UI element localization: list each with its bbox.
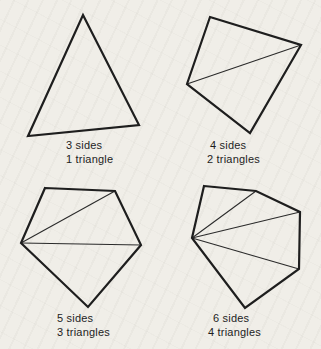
label-quadrilateral: 4 sides 2 triangles <box>207 139 260 166</box>
quadrilateral-shape <box>187 17 301 133</box>
label-hexagon: 6 sides 4 triangles <box>208 312 261 339</box>
pentagon-diagonal <box>21 191 115 243</box>
label-triangle: 3 sides 1 triangle <box>66 139 113 166</box>
triangle-sides-count: 3 sides <box>66 139 113 153</box>
hexagon-triangles-count: 4 triangles <box>208 326 261 340</box>
quadrilateral-sides-count: 4 sides <box>207 139 260 153</box>
hexagon-diagonal <box>192 212 300 238</box>
hexagon-sides-count: 6 sides <box>208 312 261 326</box>
pentagon-sides-count: 5 sides <box>57 312 110 326</box>
pentagon-triangles-count: 3 triangles <box>57 326 110 340</box>
worksheet-page: 3 sides 1 triangle 4 sides 2 triangles 5… <box>0 0 321 349</box>
label-pentagon: 5 sides 3 triangles <box>57 312 110 339</box>
hexagon-shape <box>192 186 300 308</box>
triangle-triangles-count: 1 triangle <box>66 153 113 167</box>
hexagon-diagonal <box>192 238 299 269</box>
pentagon-shape <box>21 188 141 307</box>
pentagon-diagonal <box>21 243 141 245</box>
quadrilateral-triangles-count: 2 triangles <box>207 153 260 167</box>
polygons-canvas <box>0 0 321 349</box>
triangle-shape <box>28 15 139 136</box>
quadrilateral-diagonal <box>187 45 301 84</box>
